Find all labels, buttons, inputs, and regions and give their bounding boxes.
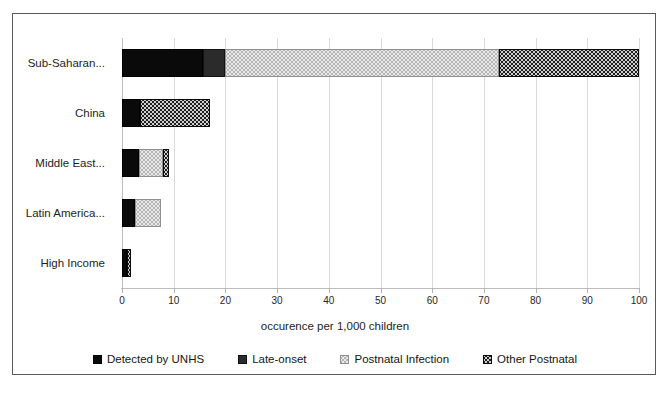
chart-legend: Detected by UNHSLate-onsetPostnatal Infe… [13, 348, 657, 370]
bar-segment-other-postnatal[interactable] [127, 249, 131, 277]
x-axis: 0102030405060708090100 [122, 288, 639, 318]
stacked-bar[interactable] [122, 99, 210, 127]
category-label: Latin America... [26, 205, 105, 221]
x-axis-tick [587, 288, 588, 293]
x-axis-tick-label: 80 [530, 295, 541, 306]
stacked-bar[interactable] [122, 249, 131, 277]
bar-segment-detected-by-unhs[interactable] [122, 149, 139, 177]
x-axis-tick-label: 90 [582, 295, 593, 306]
legend-item-label: Postnatal Infection [354, 353, 449, 365]
legend-item-late-onset[interactable]: Late-onset [238, 353, 306, 365]
category-label: Middle East... [35, 155, 105, 171]
bar-segment-other-postnatal[interactable] [163, 149, 168, 177]
x-axis-tick-label: 20 [220, 295, 231, 306]
x-axis-title: occurence per 1,000 children [13, 320, 657, 332]
x-axis-tick [381, 288, 382, 293]
x-axis-tick-label: 60 [427, 295, 438, 306]
bar-row [122, 188, 639, 238]
legend-item-detected-by-unhs[interactable]: Detected by UNHS [93, 353, 204, 365]
bar-segment-postnatal-infection[interactable] [135, 199, 161, 227]
legend-item-label: Late-onset [252, 353, 306, 365]
category-label: High Income [40, 255, 105, 271]
bar-segment-postnatal-infection[interactable] [139, 149, 163, 177]
category-axis-labels: Sub-Saharan...ChinaMiddle East...Latin A… [13, 38, 111, 288]
x-axis-tick [122, 288, 123, 293]
x-axis-tick [174, 288, 175, 293]
legend-item-label: Other Postnatal [497, 353, 577, 365]
legend-swatch-detected-by-unhs-icon [93, 355, 102, 364]
x-axis-tick [432, 288, 433, 293]
x-axis-tick-label: 0 [119, 295, 125, 306]
stacked-bar[interactable] [122, 49, 639, 77]
bar-row [122, 88, 639, 138]
x-axis-tick [329, 288, 330, 293]
x-axis-tick-label: 50 [375, 295, 386, 306]
category-label: Sub-Saharan... [28, 55, 105, 71]
x-axis-tick-label: 40 [323, 295, 334, 306]
legend-item-other-postnatal[interactable]: Other Postnatal [483, 353, 577, 365]
bar-segment-other-postnatal[interactable] [499, 49, 639, 77]
bar-row [122, 38, 639, 88]
bar-segment-other-postnatal[interactable] [140, 99, 210, 127]
bar-segment-detected-by-unhs[interactable] [122, 99, 140, 127]
x-axis-tick [639, 288, 640, 293]
x-axis-tick-label: 100 [631, 295, 648, 306]
legend-item-postnatal-infection[interactable]: Postnatal Infection [340, 353, 449, 365]
category-label: China [75, 105, 105, 121]
x-axis-tick [277, 288, 278, 293]
bar-segment-postnatal-infection[interactable] [225, 49, 499, 77]
x-axis-tick-label: 10 [168, 295, 179, 306]
stacked-bar[interactable] [122, 149, 169, 177]
x-axis-tick-label: 70 [478, 295, 489, 306]
legend-item-label: Detected by UNHS [107, 353, 204, 365]
bar-row [122, 238, 639, 288]
plot-area: Sub-Saharan...ChinaMiddle East...Latin A… [13, 14, 657, 304]
bar-row [122, 138, 639, 188]
x-axis-tick [484, 288, 485, 293]
bar-segment-late-onset[interactable] [203, 49, 225, 77]
bars-plot [122, 38, 639, 288]
x-axis-tick [536, 288, 537, 293]
legend-swatch-postnatal-infection-icon [340, 355, 349, 364]
bar-rows [122, 38, 639, 288]
stacked-bar[interactable] [122, 199, 161, 227]
gridline [639, 38, 640, 288]
x-axis-tick-label: 30 [272, 295, 283, 306]
legend-swatch-late-onset-icon [238, 355, 247, 364]
chart-frame: Sub-Saharan...ChinaMiddle East...Latin A… [12, 13, 656, 375]
bar-segment-detected-by-unhs[interactable] [122, 49, 203, 77]
legend-swatch-other-postnatal-icon [483, 355, 492, 364]
bar-segment-detected-by-unhs[interactable] [122, 199, 135, 227]
x-axis-tick [225, 288, 226, 293]
